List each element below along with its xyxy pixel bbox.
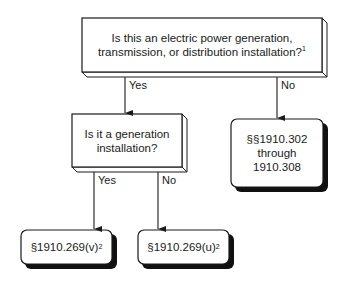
edge-q1-no-label: No (281, 79, 295, 91)
result-r-no-line1: §§1910.302 (247, 132, 308, 146)
result-r-u-text: §1910.269(u)2 (138, 230, 229, 264)
decision-q2-text: Is it a generation installation? (72, 114, 182, 167)
result-r-u-label: §1910.269(u) (147, 240, 215, 254)
result-r-no-line2: through (257, 146, 296, 160)
result-r-v-label: §1910.269(v) (31, 240, 99, 254)
decision-q1-line2: transmission, or distribution installati… (98, 46, 302, 58)
decision-q1-text: Is this an electric power generation, tr… (82, 18, 322, 72)
result-r-no-text: §§1910.302 through 1910.308 (231, 119, 323, 187)
result-r-no-line3: 1910.308 (253, 160, 301, 174)
footnote-marker: 1 (302, 45, 306, 52)
result-r-v-text: §1910.269(v)2 (21, 230, 112, 264)
edge-q2-yes-label: Yes (98, 174, 116, 186)
edge-q1-yes-label: Yes (129, 79, 147, 91)
edge-q2-no-label: No (162, 174, 176, 186)
decision-q2-line2: installation? (97, 141, 158, 155)
decision-q1-line1: Is this an electric power generation, (112, 32, 293, 44)
flowchart: Is this an electric power generation, tr… (0, 0, 346, 290)
decision-q2-line1: Is it a generation (84, 127, 169, 141)
